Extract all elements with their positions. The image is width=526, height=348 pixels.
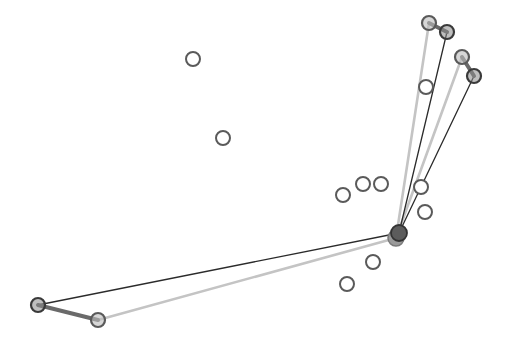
light-edges [98, 23, 462, 320]
pair-node-dark [31, 298, 45, 312]
hub-node-circle [391, 225, 407, 241]
pair-node-light [422, 16, 436, 30]
node-circle [186, 52, 200, 66]
node-circle [414, 180, 428, 194]
dark-edge [38, 233, 399, 305]
pair-connector-edge [38, 305, 98, 320]
pair-node-dark [467, 69, 481, 83]
diagram-canvas [0, 0, 526, 348]
node-circle [374, 177, 388, 191]
free-nodes [186, 52, 433, 291]
pair-node-light [455, 50, 469, 64]
node-circle [216, 131, 230, 145]
dark-edges [38, 32, 474, 305]
node-circle [366, 255, 380, 269]
pair-node-light [91, 313, 105, 327]
dark-edge [399, 76, 474, 233]
node-circle [356, 177, 370, 191]
pair-node-dark [440, 25, 454, 39]
node-circle [340, 277, 354, 291]
node-circle [418, 205, 432, 219]
node-circle [336, 188, 350, 202]
network-diagram [0, 0, 526, 348]
node-circle [419, 80, 433, 94]
hub-node [388, 225, 407, 246]
